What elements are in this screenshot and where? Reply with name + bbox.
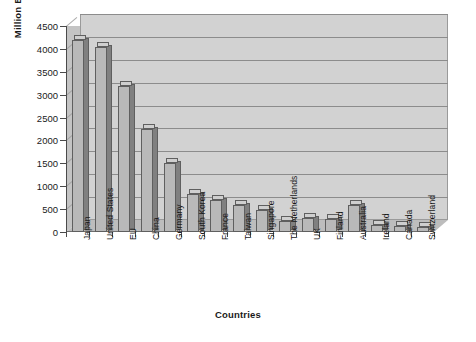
bar-side-face: [84, 38, 89, 230]
gridline: [80, 14, 448, 15]
x-axis-title: Countries: [0, 309, 476, 320]
bar-chart: Million Euros 05001000150020002500300035…: [0, 0, 476, 342]
x-category-label: Canada: [404, 210, 414, 240]
gridline: [80, 106, 448, 107]
x-category-label: United States: [105, 188, 115, 240]
bar-side-face: [130, 84, 135, 230]
y-tick-label: 1000: [18, 181, 58, 192]
gridline: [80, 197, 448, 198]
gridline: [80, 174, 448, 175]
gridline: [80, 83, 448, 84]
x-tick-mark: [66, 232, 67, 237]
plot-back-wall: [80, 14, 448, 220]
y-tick-label: 2000: [18, 135, 58, 146]
gridline: [80, 151, 448, 152]
bar: [118, 81, 135, 232]
x-category-label: Taiwan: [243, 213, 253, 240]
x-category-label: Japan: [82, 216, 92, 240]
bar-front-face: [72, 40, 84, 232]
x-category-label: Singapore: [266, 200, 276, 240]
y-tick-label: 1500: [18, 158, 58, 169]
y-tick-label: 4500: [18, 21, 58, 32]
x-category-label: Australia: [358, 206, 368, 240]
x-category-label: South Korea: [197, 192, 207, 240]
x-category-label: China: [151, 217, 161, 240]
bar: [72, 35, 89, 232]
y-tick-label: 0: [18, 227, 58, 238]
y-tick-label: 500: [18, 204, 58, 215]
x-category-label: France: [220, 213, 230, 240]
y-axis-line: [66, 26, 67, 232]
y-tick-label: 2500: [18, 112, 58, 123]
y-tick-label: 3000: [18, 89, 58, 100]
bar-side-face: [153, 127, 158, 230]
gridline: [80, 37, 448, 38]
bar-front-face: [118, 86, 130, 232]
x-category-label: UK: [312, 228, 322, 240]
gridline: [80, 128, 448, 129]
y-tick-label: 4000: [18, 43, 58, 54]
x-category-label: The Netherlands: [289, 176, 299, 240]
y-tick-label: 3500: [18, 66, 58, 77]
x-category-label: Ireland: [381, 213, 391, 240]
x-category-label: Finland: [335, 211, 345, 240]
plot-area: 050010001500200025003000350040004500 Jap…: [0, 0, 476, 342]
x-category-label: EU: [128, 228, 138, 240]
bar: [141, 124, 158, 232]
gridline: [80, 60, 448, 61]
x-category-label: Switzerland: [427, 195, 437, 240]
x-category-label: Germany: [174, 204, 184, 240]
